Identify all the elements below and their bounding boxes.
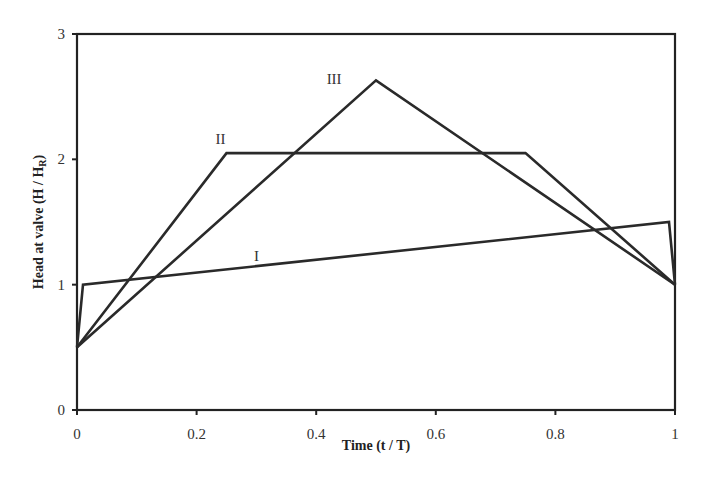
x-tick-label: 0 xyxy=(73,426,81,442)
x-axis-title: Time (t / T) xyxy=(342,438,411,454)
series-line-III xyxy=(77,80,675,347)
series-line-II xyxy=(77,153,675,347)
x-tick-label: 0.8 xyxy=(546,426,565,442)
line-chart: 00.20.40.60.810123 IIIIII Time (t / T) H… xyxy=(0,0,710,495)
y-tick-label: 2 xyxy=(58,151,66,167)
x-tick-label: 0.2 xyxy=(187,426,206,442)
series-label-I: I xyxy=(254,248,259,264)
y-tick-label: 0 xyxy=(58,402,66,418)
series-line-I xyxy=(77,222,675,347)
y-tick-label: 3 xyxy=(58,26,66,42)
x-tick-label: 0.6 xyxy=(426,426,445,442)
series-lines xyxy=(77,80,675,347)
x-tick-label: 0.4 xyxy=(307,426,326,442)
y-tick-label: 1 xyxy=(58,277,66,293)
x-tick-label: 1 xyxy=(671,426,679,442)
series-label-II: II xyxy=(216,131,226,147)
y-axis-title: Head at valve (H / HR) xyxy=(31,154,48,289)
series-label-III: III xyxy=(327,71,342,87)
